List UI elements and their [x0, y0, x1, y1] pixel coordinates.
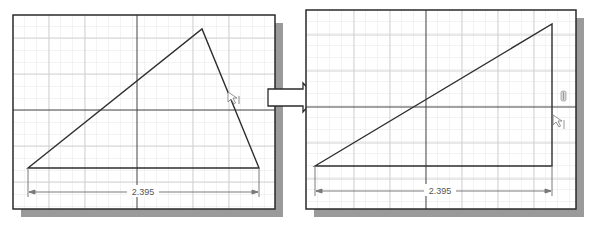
dimension-label[interactable]: 2.395 — [132, 187, 155, 197]
panel-after: 2.395 — [306, 10, 584, 217]
dimension-label[interactable]: 2.395 — [429, 186, 452, 196]
panel-before: 2.395 — [13, 15, 283, 217]
vertical-constraint-icon — [561, 91, 566, 101]
figure: 2.395 — [0, 0, 593, 226]
